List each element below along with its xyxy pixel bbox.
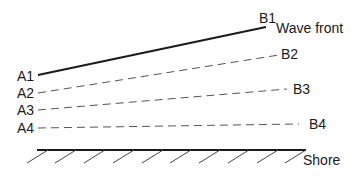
label-wave-front: Wave front [276,20,343,36]
wavefront-line-a4-b4 [38,124,299,128]
label-a3: A3 [17,102,34,118]
diagram-svg: A1 B1 Wave front A2 B2 A3 B3 A4 B4 Shore [0,0,356,177]
wavefront-line-a3-b3 [38,89,287,110]
wavefront-line-a2-b2 [38,55,279,93]
wave-refraction-diagram: A1 B1 Wave front A2 B2 A3 B3 A4 B4 Shore [0,0,356,177]
shore-hatching [27,150,306,163]
label-shore: Shore [303,152,341,168]
label-b3: B3 [293,81,310,97]
label-b1: B1 [259,10,276,26]
label-a4: A4 [17,120,34,136]
label-b4: B4 [309,116,326,132]
label-a1: A1 [17,68,34,84]
label-b2: B2 [281,46,298,62]
label-a2: A2 [17,85,34,101]
wavefront-line-a1-b1 [38,27,266,75]
